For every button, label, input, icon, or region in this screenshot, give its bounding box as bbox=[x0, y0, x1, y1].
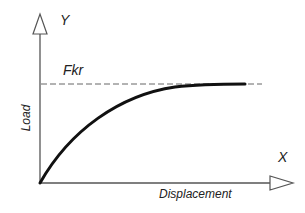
fkr-label: Fkr bbox=[63, 62, 85, 78]
y-axis-arrow-icon bbox=[33, 14, 47, 34]
load-displacement-diagram: Y X Fkr Load Displacement bbox=[0, 0, 305, 213]
y-axis-symbol: Y bbox=[60, 12, 71, 28]
load-curve bbox=[40, 84, 245, 183]
x-axis-arrow-icon bbox=[270, 176, 293, 190]
displacement-label: Displacement bbox=[159, 187, 232, 201]
load-label: Load bbox=[19, 104, 33, 131]
x-axis-symbol: X bbox=[277, 149, 288, 165]
